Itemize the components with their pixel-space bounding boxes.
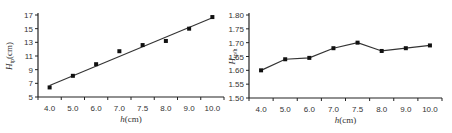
chart-left-height-vs-h: 579111315174.05.06.07.07.58.09.010.0h(cm… — [0, 0, 226, 133]
data-point-marker — [307, 56, 311, 60]
x-tick-label: 10.0 — [205, 104, 221, 113]
data-point-marker — [259, 68, 263, 72]
y-tick-label: 1.55 — [228, 80, 244, 89]
x-tick-label: 7.5 — [352, 105, 364, 114]
data-point-marker — [141, 43, 145, 47]
chart-right-ratio-vs-h: 1.501.551.601.651.701.751.804.05.06.07.0… — [226, 0, 452, 133]
data-point-marker — [380, 49, 384, 53]
data-point-marker — [48, 85, 52, 89]
x-tick-label: 4.0 — [256, 105, 268, 114]
data-point-marker — [187, 27, 191, 31]
y-tick-label: 1.60 — [228, 66, 244, 75]
x-tick-label: 8.0 — [160, 104, 172, 113]
y-axis-title: Htp(cm) — [4, 42, 15, 71]
y-tick-label: 5 — [29, 93, 34, 102]
y-tick-label: 1.70 — [228, 39, 244, 48]
x-tick-label: 9.0 — [184, 104, 196, 113]
y-tick-label: 1.80 — [228, 11, 244, 20]
x-axis-title: h(cm) — [120, 114, 142, 124]
data-point-marker — [210, 15, 214, 19]
x-tick-label: 7.0 — [114, 104, 126, 113]
y-tick-label: 13 — [24, 38, 33, 47]
data-point-marker — [283, 57, 287, 61]
y-tick-label: 11 — [25, 52, 34, 61]
data-point-marker — [117, 49, 121, 53]
y-tick-label: 17 — [24, 11, 33, 20]
x-tick-label: 7.0 — [328, 105, 340, 114]
x-axis-title: h(cm) — [335, 115, 357, 125]
x-tick-label: 6.0 — [91, 104, 103, 113]
x-tick-label: 4.0 — [44, 104, 56, 113]
x-tick-label: 7.5 — [137, 104, 149, 113]
data-point-marker — [164, 39, 168, 43]
x-tick-label: 5.0 — [280, 105, 292, 114]
x-tick-label: 10.0 — [422, 105, 438, 114]
x-tick-label: 8.0 — [376, 105, 388, 114]
x-tick-label: 6.0 — [304, 105, 316, 114]
y-tick-label: 1.75 — [228, 25, 244, 34]
data-point-marker — [428, 43, 432, 47]
data-point-marker — [71, 74, 75, 78]
data-point-marker — [404, 46, 408, 50]
x-tick-label: 5.0 — [67, 104, 79, 113]
x-tick-label: 9.0 — [400, 105, 412, 114]
data-point-marker — [94, 62, 98, 66]
figure: 579111315174.05.06.07.07.58.09.010.0h(cm… — [0, 0, 452, 133]
data-point-marker — [331, 46, 335, 50]
y-tick-label: 15 — [24, 25, 33, 34]
data-point-marker — [356, 41, 360, 45]
y-tick-label: 7 — [29, 79, 34, 88]
y-tick-label: 1.50 — [228, 94, 244, 103]
y-tick-label: 9 — [29, 66, 34, 75]
